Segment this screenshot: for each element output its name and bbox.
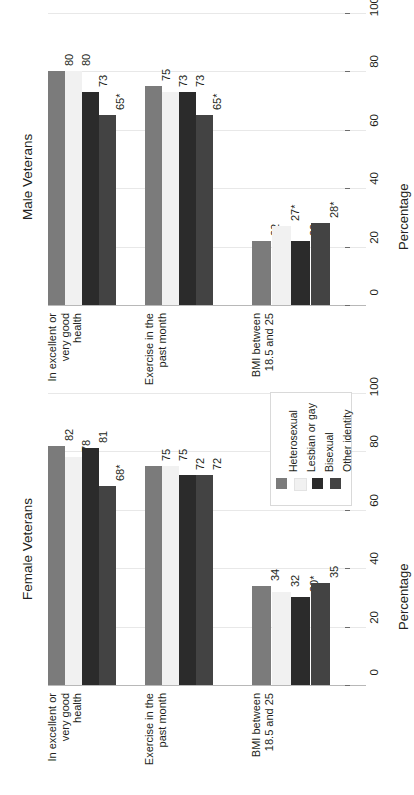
bar <box>311 223 330 305</box>
bar-value-label: 75 <box>177 449 189 461</box>
legend-swatch <box>312 478 323 489</box>
legend-label: Other identity <box>341 410 353 472</box>
bar-value-label: 81 <box>97 431 109 443</box>
category-label-line: very good <box>59 693 72 785</box>
bar <box>99 486 116 685</box>
bar-value-label: 73 <box>194 75 206 87</box>
axis-tick <box>345 305 350 306</box>
bar-value-label: 72 <box>211 458 223 470</box>
axis-tick-label: 20 <box>368 611 380 643</box>
axis-tick <box>345 510 350 511</box>
bar-value-label: 65* <box>114 94 126 111</box>
axis-tick-label: 0 <box>368 669 380 701</box>
category-label-line: Exercise in the <box>143 693 156 785</box>
bar <box>65 71 82 305</box>
axis-tick-label: 80 <box>368 435 380 467</box>
category-label-line: health <box>71 313 84 405</box>
bar <box>272 592 291 685</box>
axis-tick <box>345 130 350 131</box>
bar <box>252 241 271 305</box>
bar-value-label: 35 <box>328 566 340 578</box>
axis-tick <box>345 188 350 189</box>
axis-tick-label: 100 <box>368 377 380 409</box>
legend-label: Heterosexual <box>287 410 299 472</box>
gridline <box>48 71 366 72</box>
bar-value-label: 28* <box>328 202 340 219</box>
bar <box>99 115 116 305</box>
bar-value-label: 75 <box>160 69 172 81</box>
bar <box>82 92 99 305</box>
axis-tick-label: 0 <box>368 289 380 321</box>
bar-value-label: 72 <box>194 458 206 470</box>
axis-tick <box>345 568 350 569</box>
bar <box>291 241 310 305</box>
legend-swatch <box>330 478 341 489</box>
bar-value-label: 80 <box>63 54 75 66</box>
category-label-line: In excellent or <box>46 693 59 785</box>
legend-label: Lesbian or gay <box>305 403 317 472</box>
bar <box>145 86 162 305</box>
legend-swatch <box>276 478 287 489</box>
gridline <box>48 305 366 306</box>
bar <box>291 597 310 685</box>
axis-tick-label: 40 <box>368 172 380 204</box>
chart-page: 020406080100PercentageMale Veterans80807… <box>0 0 414 795</box>
axis-title-percentage: Percentage <box>396 184 411 251</box>
bar <box>196 475 213 685</box>
bar <box>82 448 99 685</box>
axis-tick <box>345 685 350 686</box>
category-label-line: past month <box>156 313 169 405</box>
category-label-line: BMI between <box>250 693 263 785</box>
axis-tick <box>345 71 350 72</box>
bar <box>252 586 271 685</box>
bar <box>48 446 65 685</box>
axis-tick-label: 20 <box>368 231 380 263</box>
bar-value-label: 65* <box>211 94 223 111</box>
category-label-line: health <box>71 693 84 785</box>
category-label: BMI between18.5 and 25 <box>250 693 275 785</box>
category-label-line: Exercise in the <box>143 313 156 405</box>
category-label-line: very good <box>59 313 72 405</box>
bar <box>145 466 162 685</box>
axis-tick-label: 80 <box>368 55 380 87</box>
bar <box>48 71 65 305</box>
bar-value-label: 27* <box>289 205 301 222</box>
gridline <box>48 13 366 14</box>
panel-title: Female Veterans <box>20 498 35 600</box>
axis-tick <box>345 627 350 628</box>
axis-tick <box>345 13 350 14</box>
bar <box>162 466 179 685</box>
bar <box>179 475 196 685</box>
axis-tick-label: 100 <box>368 0 380 29</box>
axis-tick-label: 60 <box>368 114 380 146</box>
category-label-line: BMI between <box>250 313 263 405</box>
bar-value-label: 73 <box>177 75 189 87</box>
bar-value-label: 80 <box>80 54 92 66</box>
bar-value-label: 34 <box>269 568 281 580</box>
bar <box>311 583 330 685</box>
bar <box>162 92 179 305</box>
legend-label: Bisexual <box>323 432 335 472</box>
category-label: Exercise in thepast month <box>143 693 168 785</box>
bar-value-label: 32 <box>289 574 301 586</box>
panel-male: 020406080100PercentageMale Veterans80807… <box>0 0 414 397</box>
bar <box>272 226 291 305</box>
axis-title-percentage: Percentage <box>396 564 411 631</box>
axis-tick <box>345 247 350 248</box>
bar-value-label: 82 <box>63 428 75 440</box>
axis-tick-label: 60 <box>368 494 380 526</box>
panel-title: Male Veterans <box>20 134 35 220</box>
category-label: In excellent orvery goodhealth <box>46 693 84 785</box>
legend-swatch <box>294 478 307 491</box>
category-label-line: 18.5 and 25 <box>263 693 276 785</box>
category-label: In excellent orvery goodhealth <box>46 313 84 405</box>
category-label: Exercise in thepast month <box>143 313 168 405</box>
category-label-line: past month <box>156 693 169 785</box>
category-label-line: In excellent or <box>46 313 59 405</box>
gridline <box>48 685 366 686</box>
bar-value-label: 73 <box>97 75 109 87</box>
bar <box>179 92 196 305</box>
bar-value-label: 68* <box>114 465 126 482</box>
bar-value-label: 75 <box>160 449 172 461</box>
bar <box>65 457 82 685</box>
